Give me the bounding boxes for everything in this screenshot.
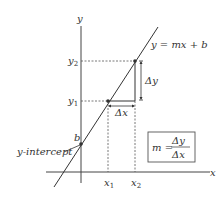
point-1 bbox=[106, 99, 110, 103]
dx-arrowhead-right bbox=[132, 105, 135, 108]
y1-label: y1 bbox=[67, 95, 78, 108]
dy-arrowhead-up bbox=[140, 61, 143, 64]
slope-numerator: Δy bbox=[171, 135, 185, 146]
y-intercept-callout: y-intercept bbox=[16, 146, 73, 157]
x-axis-label: x bbox=[210, 167, 216, 178]
point-2 bbox=[133, 59, 137, 63]
delta-x-label: Δx bbox=[114, 107, 128, 118]
dy-arrowhead-down bbox=[140, 97, 143, 100]
slope-lhs: m = bbox=[152, 142, 173, 153]
x2-label: x2 bbox=[131, 177, 141, 190]
delta-y-label: Δy bbox=[144, 75, 158, 86]
equation-label: y = mx + b bbox=[150, 39, 208, 50]
intercept-b-label: b bbox=[74, 132, 80, 143]
slope-denominator: Δx bbox=[171, 149, 185, 160]
regression-line bbox=[54, 27, 158, 187]
slope-diagram: y x y2 y1 x1 x2 y = mx + b Δy Δx b y-int… bbox=[0, 0, 221, 197]
dx-arrowhead-left bbox=[108, 105, 111, 108]
y2-label: y2 bbox=[67, 55, 78, 68]
x1-label: x1 bbox=[104, 177, 114, 190]
y-axis-label: y bbox=[76, 13, 83, 24]
